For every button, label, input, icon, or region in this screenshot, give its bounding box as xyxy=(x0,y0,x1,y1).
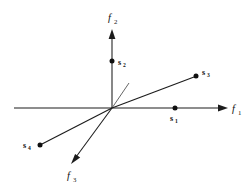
f3-axis-arrowhead xyxy=(71,154,80,164)
point-s4 xyxy=(38,143,43,148)
point-s3 xyxy=(194,74,199,79)
point-s2 xyxy=(110,59,115,64)
point-label-s4-subscript: 4 xyxy=(28,145,31,151)
point-s1 xyxy=(173,106,178,111)
ray-to-s4 xyxy=(42,108,112,144)
f3-axis-label: f xyxy=(67,170,72,181)
point-label-s1-subscript: 1 xyxy=(175,118,178,124)
f1-axis-arrowhead xyxy=(218,105,228,112)
f3-axis-line xyxy=(76,108,112,157)
f2-axis-arrowhead xyxy=(109,29,116,39)
point-label-s4: s xyxy=(23,141,26,150)
axes-canvas: f 1 f 2 f 3 s 1 s 2 s 3 s 4 xyxy=(0,0,250,187)
point-label-s1: s xyxy=(170,114,173,123)
coordinate-diagram: f 1 f 2 f 3 s 1 s 2 s 3 s 4 xyxy=(0,0,250,187)
f1-axis-label-subscript: 1 xyxy=(238,109,241,116)
point-label-s3-subscript: 3 xyxy=(207,72,210,78)
f2-axis-label: f xyxy=(108,12,113,23)
point-label-s3: s xyxy=(202,68,205,77)
point-label-s2: s xyxy=(118,58,121,67)
f3-axis-label-subscript: 3 xyxy=(73,176,77,183)
f2-axis-label-subscript: 2 xyxy=(114,18,118,25)
ray-to-s3 xyxy=(112,77,194,108)
point-label-s2-subscript: 2 xyxy=(123,62,126,68)
f1-axis-label: f xyxy=(232,103,237,114)
